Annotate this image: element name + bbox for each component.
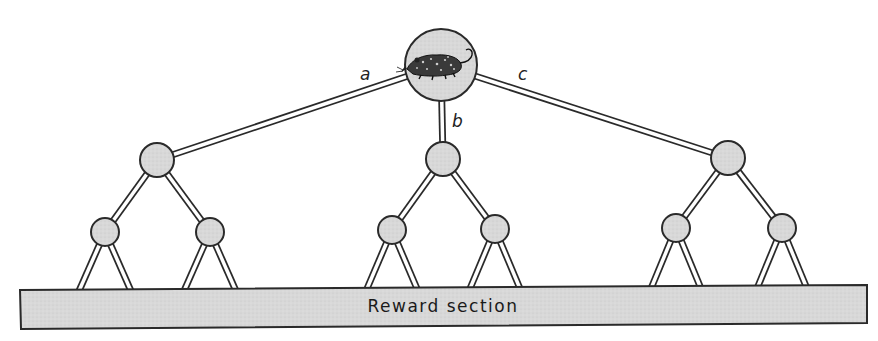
branch-label-b: b bbox=[452, 111, 463, 131]
choice-node-level1 bbox=[140, 143, 174, 177]
choice-node-level2 bbox=[768, 214, 796, 242]
choice-node-level2 bbox=[378, 216, 406, 244]
corridor bbox=[441, 65, 728, 158]
choice-node-level2 bbox=[196, 218, 224, 246]
choice-node-level2 bbox=[91, 218, 119, 246]
reward-section-label: Reward section bbox=[368, 296, 519, 316]
choice-node-level1 bbox=[711, 141, 745, 175]
branch-label-c: c bbox=[518, 64, 528, 84]
choice-node-level2 bbox=[662, 214, 690, 242]
choice-node-level1 bbox=[426, 142, 460, 176]
reward-section: Reward section bbox=[20, 285, 867, 329]
maze-diagram: Reward section bbox=[0, 0, 878, 341]
choice-node-level2 bbox=[481, 215, 509, 243]
branch-label-a: a bbox=[360, 64, 370, 84]
corridor bbox=[157, 65, 441, 160]
start-chamber bbox=[396, 29, 477, 101]
choice-points bbox=[91, 141, 796, 246]
